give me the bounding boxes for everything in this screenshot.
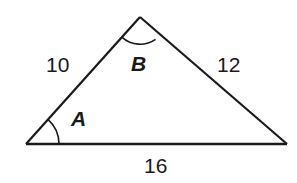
angle-arc-b [122,37,155,44]
side-length-label-right: 12 [217,54,240,75]
side-length-label-left: 10 [46,54,69,75]
angle-arc-a [48,119,59,144]
angle-label-a: A [71,108,86,129]
side-length-label-base: 16 [144,155,167,176]
triangle-side-right [140,17,287,144]
angle-label-b: B [131,53,146,74]
diagram-canvas: 10 12 16 A B [0,0,297,183]
